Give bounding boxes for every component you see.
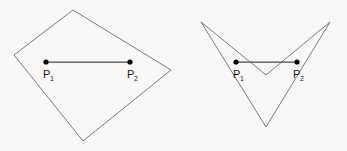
convex-point-p1-subscript: 1 — [50, 75, 54, 82]
convex-point-p2-dot — [127, 59, 132, 64]
concave-point-p1-dot — [233, 59, 238, 64]
concave-point-p2-dot — [294, 59, 299, 64]
figure-canvas: P 1 P 2 P 1 P 2 — [0, 0, 347, 151]
convex-point-p1-dot — [43, 59, 48, 64]
convex-point-p2-subscript: 2 — [134, 75, 138, 82]
concave-point-p1-subscript: 1 — [240, 75, 244, 82]
shape-concave-dart-polygon: P 1 P 2 — [201, 22, 330, 127]
shape-convex-quadrilateral: P 1 P 2 — [14, 10, 171, 141]
concave-polygon-outline — [201, 22, 330, 127]
geometry-diagram: P 1 P 2 P 1 P 2 — [0, 0, 347, 151]
convex-polygon-outline — [14, 10, 171, 141]
concave-point-p2-subscript: 2 — [300, 75, 304, 82]
